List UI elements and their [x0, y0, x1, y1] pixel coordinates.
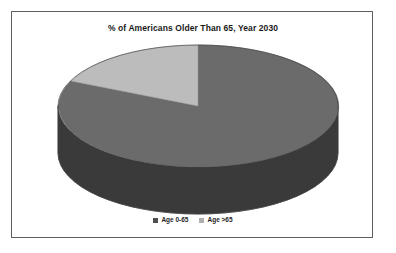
legend-item-age-0-65[interactable]: Age 0-65 — [153, 217, 188, 224]
square-marker-icon — [199, 218, 204, 223]
chart-legend: Age 0-65 Age >65 — [12, 217, 374, 224]
legend-item-age-over-65[interactable]: Age >65 — [199, 217, 232, 224]
pie-chart-svg — [12, 12, 374, 239]
square-marker-icon — [153, 218, 158, 223]
chart-frame: % of Americans Older Than 65, Year 2030 … — [11, 11, 373, 238]
legend-item-label: Age 0-65 — [161, 217, 188, 224]
legend-item-label: Age >65 — [207, 217, 232, 224]
pie-chart-plot-area — [12, 12, 374, 239]
